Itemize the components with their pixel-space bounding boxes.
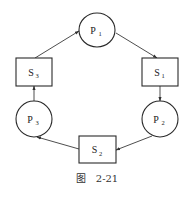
node-label: S: [92, 144, 98, 155]
svg-text:S: S: [92, 144, 98, 155]
process-node-p1: P 1: [79, 13, 115, 47]
process-node-p3: P 3: [16, 101, 52, 137]
node-label: S: [154, 67, 160, 78]
node-subscript: 1: [98, 30, 101, 37]
svg-text:S: S: [28, 67, 34, 78]
node-label: P: [90, 25, 96, 36]
cycle-diagram: P 1 P 2 P 3 S 1 S 2 S 3 图 2-21: [0, 0, 190, 199]
node-subscript: 2: [99, 150, 102, 157]
resource-node-s2: S 2: [79, 136, 116, 163]
resource-node-s3: S 3: [16, 58, 52, 86]
svg-text:P: P: [153, 114, 159, 125]
edge-s3-to-p1: [35, 31, 79, 58]
resource-node-s1: S 1: [142, 58, 178, 86]
edge-p2-to-s2: [116, 136, 152, 150]
caption-number: 2-21: [96, 173, 118, 184]
process-node-p2: P 2: [142, 101, 178, 137]
svg-text:P: P: [90, 25, 96, 36]
edge-p1-to-s1: [116, 33, 157, 58]
node-subscript: 1: [161, 72, 164, 79]
svg-text:P: P: [27, 114, 33, 125]
svg-text:S: S: [154, 67, 160, 78]
node-label: P: [153, 114, 159, 125]
node-subscript: 3: [35, 119, 38, 126]
caption-prefix: 图: [76, 173, 86, 184]
figure-caption: 图 2-21: [76, 173, 118, 184]
node-subscript: 2: [161, 119, 164, 126]
node-label: P: [27, 114, 33, 125]
node-subscript: 3: [35, 72, 38, 79]
node-label: S: [28, 67, 34, 78]
edge-s2-to-p3: [37, 137, 79, 149]
